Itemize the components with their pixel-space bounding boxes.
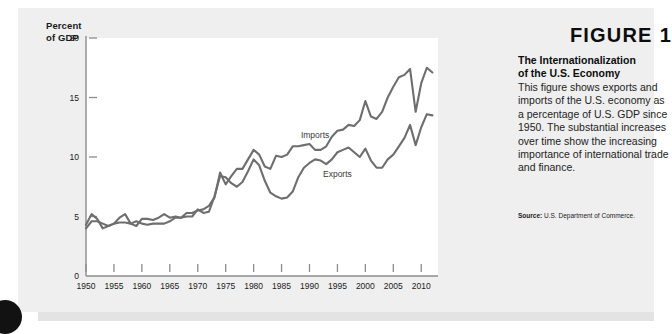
figure-heading-word: FIGURE (570, 24, 653, 46)
svg-text:1995: 1995 (328, 281, 347, 291)
svg-text:1985: 1985 (272, 281, 291, 291)
chart-panel: Percent of GDP 05101520 1950195519601965… (18, 8, 438, 312)
svg-text:1965: 1965 (160, 281, 179, 291)
x-tick-labels: 1950195519601965197019751980198519901995… (77, 281, 431, 291)
figure-caption-description: This figure shows exports and imports of… (518, 81, 672, 175)
svg-text:15: 15 (70, 93, 80, 103)
svg-text:1980: 1980 (244, 281, 263, 291)
svg-text:1960: 1960 (132, 281, 151, 291)
figure-heading-number: 1 (660, 24, 672, 46)
svg-text:Imports: Imports (301, 130, 329, 140)
svg-text:1975: 1975 (216, 281, 235, 291)
figure-heading: FIGURE1 (570, 24, 672, 47)
figure-caption-title-line2: of the U.S. Economy (518, 67, 620, 79)
svg-text:1950: 1950 (77, 281, 96, 291)
figure-side-panel: FIGURE1 The Internationalization of the … (518, 8, 672, 312)
svg-text:1955: 1955 (104, 281, 123, 291)
y-tick-labels: 05101520 (70, 33, 80, 281)
plot-area: 05101520 1950195519601965197019751980198… (18, 8, 438, 312)
figure-caption-title-line1: The Internationalization (518, 54, 636, 66)
figure-source-label: Source: (518, 212, 542, 219)
svg-text:2000: 2000 (356, 281, 375, 291)
svg-text:1990: 1990 (300, 281, 319, 291)
card-shadow (38, 312, 654, 321)
figure-caption: The Internationalization of the U.S. Eco… (518, 54, 672, 175)
svg-text:2005: 2005 (384, 281, 403, 291)
line-chart: 05101520 1950195519601965197019751980198… (18, 8, 438, 312)
svg-text:5: 5 (74, 212, 79, 222)
svg-text:20: 20 (70, 33, 80, 43)
svg-text:0: 0 (74, 271, 79, 281)
figure-source: Source: U.S. Department of Commerce. (518, 212, 672, 220)
svg-text:1970: 1970 (188, 281, 207, 291)
svg-text:2010: 2010 (412, 281, 431, 291)
figure-card: Percent of GDP 05101520 1950195519601965… (18, 8, 654, 312)
figure-source-text: U.S. Department of Commerce. (544, 212, 635, 219)
svg-text:Exports: Exports (323, 169, 352, 179)
svg-text:10: 10 (70, 152, 80, 162)
plot-background (86, 38, 438, 276)
figure-caption-title: The Internationalization of the U.S. Eco… (518, 54, 672, 80)
